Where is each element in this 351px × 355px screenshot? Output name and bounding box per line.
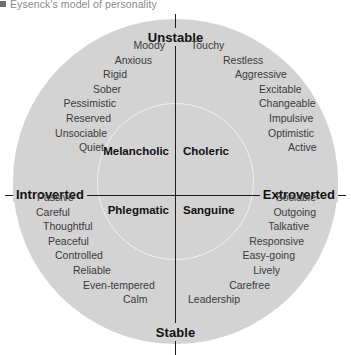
trait-item: Reserved — [55, 111, 111, 126]
trait-item: Thoughtful — [43, 219, 155, 234]
trait-item: Careful — [36, 205, 155, 220]
trait-item: Changeable — [259, 96, 317, 111]
trait-item: Unsociable — [55, 126, 107, 141]
trait-item: Aggressive — [235, 67, 317, 82]
trait-item: Responsive — [188, 234, 304, 249]
trait-item: Rigid — [55, 67, 127, 82]
trait-item: Pessimistic — [55, 96, 116, 111]
trait-list-choleric: TouchyRestlessAggressiveExcitableChangea… — [183, 38, 317, 155]
trait-item: Passive — [37, 190, 155, 205]
square-bullet-icon — [0, 1, 6, 7]
eysenck-personality-diagram: Unstable Stable Introverted Extroverted … — [0, 14, 351, 355]
trait-item: Quiet — [55, 140, 104, 155]
trait-item: Impulsive — [269, 111, 317, 126]
trait-item: Reliable — [73, 263, 155, 278]
trait-item: Optimistic — [268, 126, 317, 141]
trait-item: Even-tempered — [83, 278, 155, 293]
trait-item: Outgoing — [188, 205, 316, 220]
trait-item: Excitable — [259, 82, 317, 97]
trait-item: Talkative — [188, 219, 309, 234]
vertical-axis-line — [175, 14, 176, 355]
trait-item: Moody — [55, 38, 165, 53]
trait-item: Controlled — [55, 248, 155, 263]
trait-item: Peaceful — [48, 234, 155, 249]
figure-caption: Eysenck's model of personality — [0, 0, 157, 11]
trait-list-sanguine: SociableOutgoingTalkativeResponsiveEasy-… — [188, 190, 318, 307]
trait-item: Sober — [55, 82, 121, 97]
trait-list-phlegmatic: PassiveCarefulThoughtfulPeacefulControll… — [33, 190, 155, 307]
trait-item: Touchy — [191, 38, 317, 53]
trait-list-melancholic: MoodyAnxiousRigidSoberPessimisticReserve… — [55, 38, 169, 155]
trait-item: Restless — [223, 53, 317, 68]
trait-item: Easy-going — [188, 248, 295, 263]
trait-item: Sociable — [188, 190, 316, 205]
trait-item: Carefree — [188, 278, 270, 293]
trait-item: Lively — [188, 263, 280, 278]
trait-item: Calm — [123, 292, 155, 307]
axis-label-stable: Stable — [0, 325, 351, 340]
trait-item: Active — [288, 140, 317, 155]
caption-text: Eysenck's model of personality — [10, 0, 157, 10]
trait-item: Anxious — [55, 53, 152, 68]
trait-item: Leadership — [188, 292, 240, 307]
